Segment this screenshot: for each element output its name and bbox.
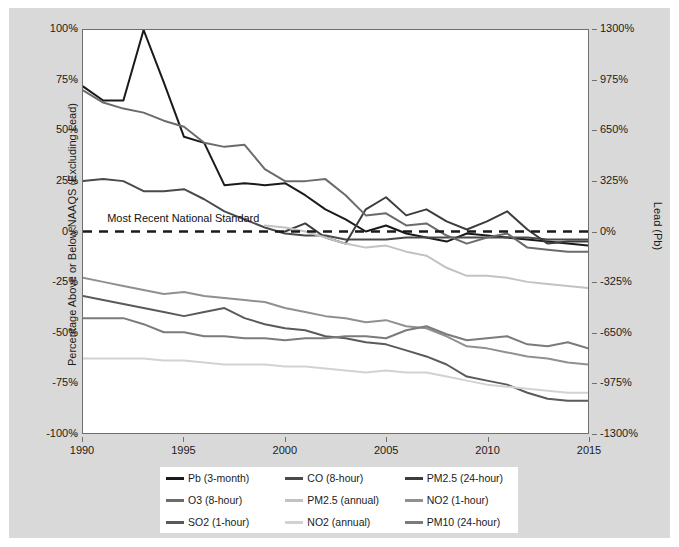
y-axis-left-title-holder: Percentage Above or Below NAAQS (Excludi… [22,30,42,430]
y-axis-right-tick-label: 975% [600,74,628,85]
legend-item[interactable]: NO2 (1-hour) [399,494,518,506]
legend-item-label: NO2 (1-hour) [427,494,489,506]
legend-item-label: O3 (8-hour) [188,494,242,506]
legend-item-label: SO2 (1-hour) [188,516,249,528]
y-axis-right-title-holder: Lead (Pb) [645,170,665,290]
x-axis-tick-mark [488,437,489,442]
y-axis-right-tick-mark [592,181,597,182]
legend-item-label: NO2 (annual) [307,516,370,528]
legend-color-swatch [285,499,303,502]
legend-color-swatch [405,477,423,480]
y-axis-right-tick-label: 0% [600,226,616,237]
y-axis-left-title: Percentage Above or Below NAAQS (Excludi… [66,106,78,366]
y-axis-right-tick-label: 1300% [600,23,634,34]
legend-item[interactable]: PM2.5 (annual) [279,494,398,506]
x-axis-tick-mark [589,437,590,442]
legend-item[interactable]: Pb (3-month) [160,472,279,484]
x-axis-tick-label: 2000 [273,444,297,456]
y-axis-left-tick-mark [73,434,78,435]
legend-color-swatch [285,477,303,480]
y-axis-right: 1300%975%650%325%0%-325%-650%-975%-1300% [592,29,652,434]
legend-item-label: PM2.5 (24-hour) [427,472,503,484]
y-axis-right-tick-mark [592,333,597,334]
series-line [83,296,588,401]
x-axis-tick-label: 2015 [577,444,601,456]
y-axis-right-tick-label: -650% [600,327,632,338]
legend-color-swatch [405,521,423,524]
x-axis-tick-mark [386,437,387,442]
legend-item[interactable]: CO (8-hour) [279,472,398,484]
plot-area: Most Recent National Standard [82,29,589,434]
legend-item-label: CO (8-hour) [307,472,363,484]
x-axis-tick-label: 2005 [374,444,398,456]
legend-item-label: PM10 (24-hour) [427,516,501,528]
y-axis-right-tick-mark [592,80,597,81]
legend-item[interactable]: PM10 (24-hour) [399,516,518,528]
y-axis-right-tick-mark [592,383,597,384]
y-axis-right-tick-label: 325% [600,175,628,186]
y-axis-right-tick-mark [592,130,597,131]
series-line [83,90,588,251]
y-axis-right-tick-label: 650% [600,124,628,135]
legend-item[interactable]: NO2 (annual) [279,516,398,528]
y-axis-right-tick-mark [592,434,597,435]
y-axis-left-tick-mark [73,29,78,30]
x-axis-tick-label: 2010 [475,444,499,456]
legend-color-swatch [405,499,423,502]
y-axis-right-title: Lead (Pb) [652,171,664,281]
plot-lines: Most Recent National Standard [83,30,588,433]
y-axis-right-tick-mark [592,29,597,30]
y-axis-left-tick-mark [73,80,78,81]
x-axis-tick-mark [183,437,184,442]
x-axis-tick-label: 1995 [171,444,195,456]
legend: Pb (3-month)CO (8-hour)PM2.5 (24-hour)O3… [160,467,518,533]
legend-color-swatch [166,499,184,502]
legend-item[interactable]: O3 (8-hour) [160,494,279,506]
x-axis-tick-label: 1990 [70,444,94,456]
series-line [265,225,588,287]
x-axis: 199019952000200520102015 [82,437,589,459]
y-axis-right-tick-mark [592,232,597,233]
legend-color-swatch [285,521,303,524]
y-axis-right-tick-label: -325% [600,276,632,287]
series-line [83,358,588,392]
x-axis-tick-mark [82,437,83,442]
annotation-most-recent-national-standard: Most Recent National Standard [107,212,259,224]
series-line [83,318,588,348]
legend-color-swatch [166,521,184,524]
legend-item-label: PM2.5 (annual) [307,494,379,506]
legend-color-swatch [166,477,184,480]
chart-figure: 100%75%50%25%0%-25%-50%-75%-100% Percent… [0,0,679,547]
y-axis-left-tick-mark [73,383,78,384]
legend-item[interactable]: SO2 (1-hour) [160,516,279,528]
y-axis-right-tick-mark [592,282,597,283]
y-axis-right-tick-label: -975% [600,377,632,388]
x-axis-tick-mark [285,437,286,442]
legend-item-label: Pb (3-month) [188,472,249,484]
legend-item[interactable]: PM2.5 (24-hour) [399,472,518,484]
series-line [83,278,588,365]
y-axis-right-tick-label: -1300% [600,428,638,439]
